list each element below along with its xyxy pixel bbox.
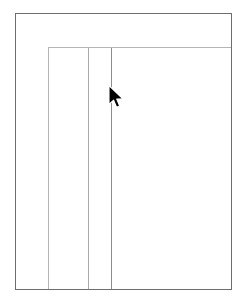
column-divider-1[interactable] (88, 48, 89, 289)
content-panel[interactable] (48, 47, 231, 289)
screenshot-canvas (0, 0, 247, 302)
column-divider-2[interactable] (111, 48, 112, 289)
window-frame (15, 13, 232, 290)
